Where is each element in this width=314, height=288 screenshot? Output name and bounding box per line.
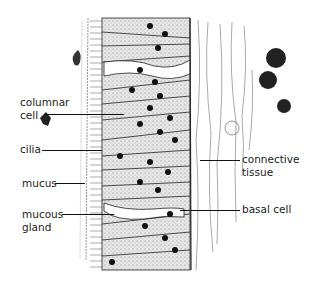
label-connective-tissue: connective tissue	[242, 153, 299, 179]
mucus-blob	[73, 50, 81, 66]
label-mucous-gland: mucous gland	[22, 208, 63, 234]
label-columnar-cell: columnar cell	[20, 96, 69, 122]
connective-tissue-region	[196, 20, 253, 270]
blood-cells	[259, 48, 291, 113]
leader-cilia	[42, 150, 102, 151]
leader-mucus	[55, 183, 85, 184]
epithelial-cells	[102, 18, 190, 270]
label-mucus: mucus	[22, 177, 57, 190]
leader-mucous-gland	[62, 214, 114, 215]
leader-basal-cell	[180, 210, 240, 211]
cilia-fringe	[90, 20, 102, 270]
label-basal-cell: basal cell	[242, 203, 291, 216]
label-cilia: cilia	[20, 143, 41, 156]
epithelium-illustration	[0, 0, 314, 288]
leader-columnar-cell	[44, 114, 124, 115]
leader-connective-tissue	[200, 160, 240, 161]
